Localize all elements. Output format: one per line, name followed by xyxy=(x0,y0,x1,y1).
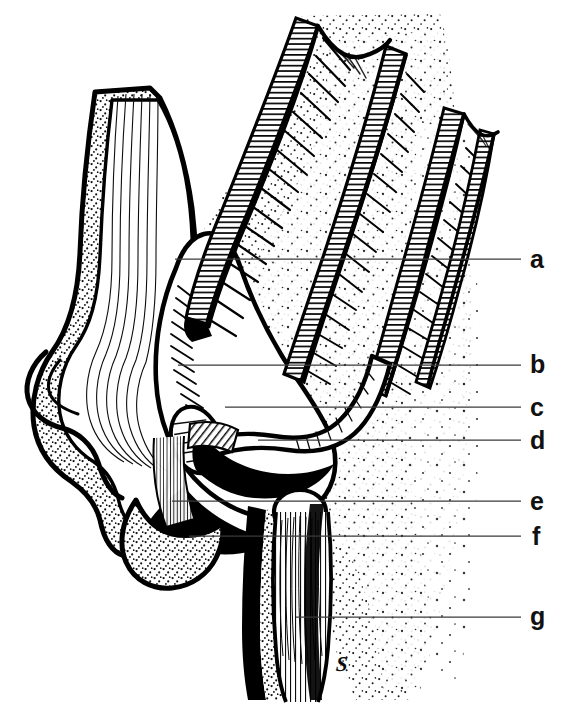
figure-container: abcdefg S xyxy=(0,0,568,712)
anatomical-line-drawing xyxy=(0,0,568,712)
figure-label-e: e xyxy=(530,489,544,514)
figure-label-b: b xyxy=(530,352,545,377)
artist-signature: S xyxy=(335,652,348,677)
lower-stalk xyxy=(242,490,331,702)
figure-label-c: c xyxy=(530,395,544,420)
figure-label-g: g xyxy=(530,604,545,629)
figure-label-a: a xyxy=(530,247,544,272)
figure-label-d: d xyxy=(530,428,545,453)
figure-label-f: f xyxy=(532,524,540,549)
